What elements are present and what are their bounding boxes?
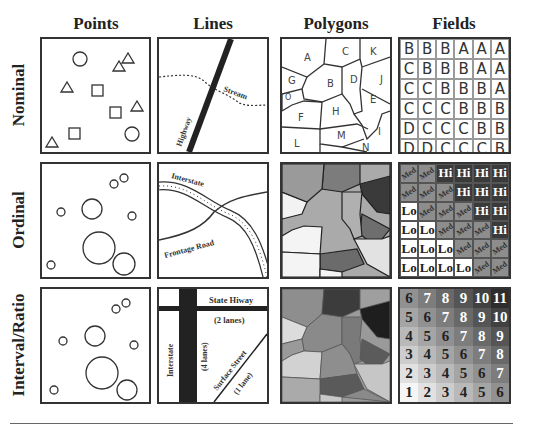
interstate-road — [179, 289, 197, 402]
interstate-lanes-label: (4 lanes) — [200, 342, 209, 371]
divider-line — [10, 423, 513, 424]
grid-cell: 6 — [454, 346, 472, 365]
column-header-fields: Fields — [398, 14, 510, 34]
grid-cell: B — [400, 39, 418, 59]
choropleth-ordinal — [282, 164, 390, 277]
nominal-polygons-panel: A B C D E F G H I J K L M N O — [280, 37, 392, 154]
nominal-lines-panel: Stream Highway — [157, 37, 269, 154]
grid-cell: Hi — [491, 183, 509, 202]
polygon-label-j: J — [379, 74, 383, 85]
grid-cell: 5 — [473, 383, 491, 402]
square-icon — [110, 107, 121, 118]
grid-cell: Lo — [436, 258, 454, 277]
grid-cell: Med — [454, 239, 472, 258]
circle-icon — [117, 380, 137, 400]
row-header-interval: Interval/Ratio — [4, 287, 34, 403]
grid-cell: Hi — [491, 164, 509, 183]
ordinal-polygons-panel — [280, 162, 392, 279]
grid-cell: 4 — [454, 383, 472, 402]
grid-cell: 5 — [418, 327, 436, 346]
grid-cell: 4 — [436, 364, 454, 383]
grid-cell: 10 — [491, 308, 509, 327]
cell-label: Med — [436, 222, 454, 238]
polygon-label-m: M — [337, 130, 346, 141]
grid-cell: C — [454, 139, 472, 154]
grid-cell: Lo — [418, 221, 436, 240]
grid-cell: A — [491, 79, 509, 99]
circle-icon — [82, 199, 102, 219]
circle-icon — [73, 52, 87, 66]
grid-cell: B — [491, 99, 509, 119]
grid-cell: 6 — [491, 383, 509, 402]
grid-cell: B — [418, 59, 436, 79]
ordinal-lines-panel: Interstate Frontage Road — [157, 162, 269, 279]
grid-cell: Med — [454, 202, 472, 221]
grid-cell: B — [454, 99, 472, 119]
column-header-lines: Lines — [157, 14, 269, 34]
circle-icon — [122, 299, 130, 307]
grid-cell: Hi — [473, 164, 491, 183]
polygon-label-k: K — [370, 46, 377, 57]
grid-cell: 6 — [473, 364, 491, 383]
frontage-road-label: Frontage Road — [163, 238, 215, 260]
polygon-label-e: E — [370, 94, 376, 105]
grid-cell: B — [473, 119, 491, 139]
grid-cell: Med — [400, 164, 418, 183]
circle-icon — [86, 357, 118, 389]
cell-label: Med — [418, 203, 436, 219]
grid-cell: C — [400, 99, 418, 119]
polygon-labels: A B C D E F G H I J K L M N O — [282, 39, 390, 152]
row-label-nominal: Nominal — [9, 64, 29, 126]
grid-cell: C — [418, 119, 436, 139]
cell-label: Med — [436, 203, 454, 219]
grid-cell: 5 — [454, 364, 472, 383]
grid-cell: 3 — [400, 346, 418, 365]
grid-cell: C — [436, 99, 454, 119]
grid-cell: Lo — [418, 239, 436, 258]
cell-label: Med — [473, 222, 491, 238]
grid-cell: 2 — [400, 364, 418, 383]
grid-cell: Lo — [418, 258, 436, 277]
polygon-label-n: N — [362, 142, 369, 152]
polygon-label-l: L — [294, 138, 300, 149]
grid-cell: 6 — [418, 308, 436, 327]
grid-cell: D — [418, 139, 436, 154]
grid-cell: 9 — [454, 289, 472, 308]
grid-cell: Med — [473, 239, 491, 258]
grid-cell: 3 — [436, 383, 454, 402]
interval-lines-panel: State Hiway (2 lanes) Interstate (4 lane… — [157, 287, 269, 404]
circle-icon — [112, 305, 120, 313]
grid-cell: Med — [491, 239, 509, 258]
circle-icon — [59, 337, 67, 345]
grid-cell: 5 — [400, 308, 418, 327]
row-label-ordinal: Ordinal — [9, 191, 29, 249]
triangle-icon — [122, 53, 134, 63]
row-label-interval: Interval/Ratio — [9, 294, 29, 397]
grid-cell: Hi — [473, 202, 491, 221]
cell-label: Med — [491, 241, 509, 257]
polygon-label-c: C — [342, 46, 349, 57]
nominal-fields-panel: BBBAAA CBBBAA CCBBBA CCCBBB DCCCBB DDCCC… — [398, 37, 511, 154]
polygon-label-g: G — [288, 75, 296, 86]
cell-label: Med — [455, 203, 473, 219]
stream-label: Stream — [222, 84, 249, 101]
grid-cell: 8 — [436, 289, 454, 308]
grid-cell: Lo — [400, 258, 418, 277]
grid-cell: A — [454, 39, 472, 59]
circle-icon — [110, 180, 118, 188]
grid-cell: 8 — [491, 346, 509, 365]
grid-cell: Med — [418, 183, 436, 202]
ordinal-fields-panel: MedMedHiHiHiHi MedMedMedHiHiHi LoMedMedM… — [398, 162, 511, 279]
cell-label: Med — [455, 222, 473, 238]
grid-cell: 7 — [473, 346, 491, 365]
cell-label: Med — [491, 259, 509, 275]
cell-label: Med — [455, 241, 473, 257]
state-hiway-lanes-label: (2 lanes) — [214, 315, 245, 325]
grid-cell: B — [491, 139, 509, 154]
ordinal-road-features: Interstate Frontage Road — [159, 164, 267, 277]
grid-cell: 5 — [436, 346, 454, 365]
cell-label: Med — [436, 184, 454, 200]
grid-cell: B — [473, 79, 491, 99]
grid-cell: Med — [491, 258, 509, 277]
polygon-label-i: I — [378, 126, 381, 137]
